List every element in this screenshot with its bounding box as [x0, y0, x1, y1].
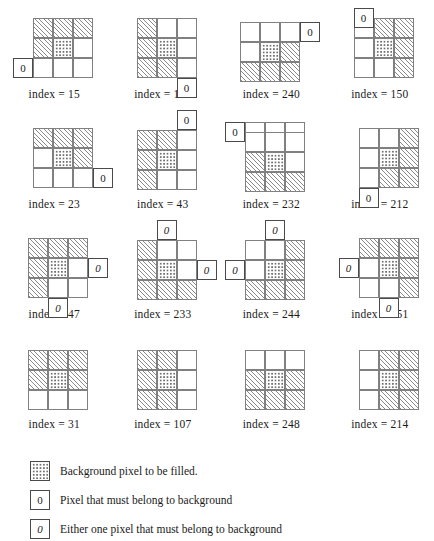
either-zero-marker: 0: [157, 220, 177, 240]
pattern-stage: [326, 330, 434, 422]
neighbourhood-grid: [245, 350, 305, 410]
grid-cell-empty: [379, 278, 399, 298]
grid-cell-empty: [359, 370, 379, 390]
grid-cell-object: [33, 128, 53, 148]
grid-cell-empty: [245, 350, 265, 370]
grid-cell-object: [379, 390, 399, 410]
grid-cell-object: [28, 258, 48, 278]
grid-cell-object: [399, 168, 419, 188]
pattern-block: 0index = 23: [0, 110, 109, 220]
grid-cell-empty: [359, 148, 379, 168]
pattern-index-label: index = 150: [326, 88, 434, 100]
zero-marker: 0: [354, 8, 374, 28]
grid-cell-object: [399, 350, 419, 370]
pattern-block: 0index = 212: [326, 110, 434, 220]
grid-cell-object: [245, 280, 265, 300]
grid-cell-empty: [177, 18, 197, 38]
pattern-block: 00index = 151: [326, 220, 434, 330]
pattern-stage: 0: [217, 110, 326, 202]
grid-cell-object: [394, 58, 414, 78]
grid-cell-object: [265, 280, 285, 300]
grid-cell-empty: [73, 38, 93, 58]
grid-cell-object: [33, 18, 53, 38]
grid-cell-empty: [245, 260, 265, 280]
legend-label: Either one pixel that must belong to bac…: [60, 520, 282, 538]
pattern-block: 0index = 240: [217, 0, 326, 110]
pattern-index-label: index = 107: [109, 418, 218, 430]
grid-cell-object: [285, 370, 305, 390]
neighbourhood-grid: [245, 132, 305, 192]
grid-cell-object: [157, 350, 177, 370]
pattern-stage: 0: [109, 0, 218, 92]
grid-cell-object: [137, 38, 157, 58]
pattern-index-label: index = 214: [326, 418, 434, 430]
grid-cell-empty: [177, 38, 197, 58]
grid-cell-object: [379, 350, 399, 370]
grid-cell-to-fill: [157, 150, 177, 170]
grid-cell-empty: [374, 58, 394, 78]
grid-cell-object: [157, 58, 177, 78]
pattern-block: index = 107: [109, 330, 218, 440]
grid-cell-empty: [53, 58, 73, 78]
grid-cell-object: [399, 278, 419, 298]
grid-cell-object: [73, 18, 93, 38]
grid-cell-to-fill: [53, 38, 73, 58]
pattern-block: 0index = 105: [109, 0, 218, 110]
grid-cell-object: [28, 238, 48, 258]
grid-cell-object: [240, 62, 260, 82]
neighbourhood-grid: [137, 18, 197, 78]
grid-cell-empty: [359, 128, 379, 148]
grid-cell-object: [177, 280, 197, 300]
pattern-block: 00index = 233: [109, 220, 218, 330]
grid-cell-object: [53, 18, 73, 38]
pattern-stage: [109, 330, 218, 422]
grid-cell-object: [28, 278, 48, 298]
grid-cell-empty: [177, 58, 197, 78]
grid-cell-empty: [157, 170, 177, 190]
legend-swatch-zero: 0: [30, 490, 50, 510]
grid-cell-to-fill: [265, 370, 285, 390]
grid-cell-object: [280, 42, 300, 62]
neighbourhood-grid: [137, 130, 197, 190]
pattern-index-label: index = 212: [326, 198, 434, 210]
grid-cell-empty: [280, 22, 300, 42]
pattern-index-label: index = 15: [0, 88, 109, 100]
pattern-block: 0index = 15: [0, 0, 109, 110]
grid-cell-to-fill: [48, 258, 68, 278]
grid-cell-empty: [68, 258, 88, 278]
pattern-block: index = 31: [0, 330, 109, 440]
pattern-stage: [217, 330, 326, 422]
zero-marker: 0: [177, 78, 197, 98]
either-zero-marker: 0: [379, 298, 399, 318]
grid-cell-object: [374, 18, 394, 38]
pattern-index-label: index = 233: [109, 308, 218, 320]
grid-cell-object: [48, 350, 68, 370]
grid-cell-empty: [73, 168, 93, 188]
grid-cell-to-fill: [265, 260, 285, 280]
pattern-index-label: index = 240: [217, 88, 326, 100]
grid-cell-empty: [285, 132, 305, 152]
neighbourhood-grid: [245, 240, 305, 300]
grid-cell-empty: [73, 58, 93, 78]
grid-cell-object: [68, 238, 88, 258]
pattern-stage: 00: [326, 220, 434, 312]
grid-cell-object: [394, 38, 414, 58]
pattern-block: 0index = 43: [109, 110, 218, 220]
grid-cell-object: [359, 238, 379, 258]
grid-cell-object: [53, 128, 73, 148]
grid-cell-empty: [68, 278, 88, 298]
grid-cell-empty: [68, 390, 88, 410]
either-zero-marker: 0: [225, 260, 245, 280]
pattern-index-label: index = 31: [0, 418, 109, 430]
grid-cell-empty: [359, 278, 379, 298]
grid-cell-object: [399, 148, 419, 168]
grid-cell-to-fill: [379, 148, 399, 168]
grid-cell-empty: [245, 240, 265, 260]
grid-cell-to-fill: [157, 260, 177, 280]
grid-cell-object: [137, 18, 157, 38]
pattern-stage: 0: [109, 110, 218, 202]
pattern-gallery: 0index = 150index = 1050index = 2400inde…: [0, 0, 434, 455]
grid-cell-empty: [48, 278, 68, 298]
grid-cell-object: [245, 152, 265, 172]
pattern-stage: 0: [0, 0, 109, 92]
